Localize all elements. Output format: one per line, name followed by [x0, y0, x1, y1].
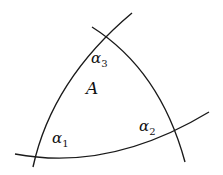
angle-alpha2-label: α2: [139, 119, 156, 134]
alpha1-base: α: [52, 129, 62, 147]
alpha3-base: α: [91, 49, 101, 67]
angle-alpha3-label: α3: [91, 51, 108, 66]
alpha2-subscript: 2: [149, 126, 155, 137]
bottom-curve: [15, 112, 209, 158]
diagram-canvas: A α1 α2 α3: [0, 0, 223, 175]
alpha3-subscript: 3: [101, 58, 107, 69]
alpha1-subscript: 1: [62, 138, 68, 149]
curves-svg: [0, 0, 223, 175]
alpha2-base: α: [139, 117, 149, 135]
left-curve: [33, 13, 132, 167]
area-label: A: [86, 80, 98, 97]
angle-alpha1-label: α1: [52, 131, 69, 146]
right-curve: [92, 27, 185, 162]
